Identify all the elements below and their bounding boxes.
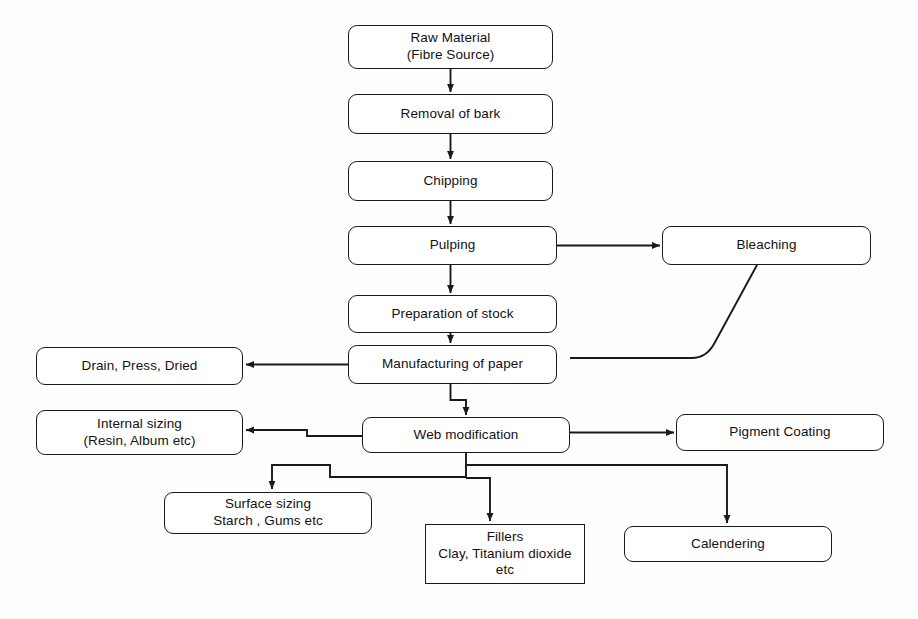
node-internal-sizing[interactable]: Internal sizing (Resin, Album etc) [36,410,243,455]
node-label: Web modification [410,427,523,444]
node-label: Fillers Clay, Titanium dioxide etc [434,529,575,580]
edge-manufacturing-to-web [451,384,467,415]
node-fillers[interactable]: Fillers Clay, Titanium dioxide etc [425,524,585,584]
edge-web-to-surface-sizing [272,465,466,489]
node-label: Drain, Press, Dried [78,358,202,375]
node-label: Preparation of stock [387,306,517,323]
edge-bleaching-to-manufacturing [570,265,757,358]
flowchart-canvas: Raw Material (Fibre Source) Removal of b… [0,0,918,619]
node-label: Surface sizing Starch , Gums etc [209,496,327,530]
node-pigment-coating[interactable]: Pigment Coating [676,414,884,451]
edge-web-to-fillers [466,478,490,521]
node-label: Pulping [426,237,480,254]
node-label: Removal of bark [397,106,505,123]
node-web-modification[interactable]: Web modification [362,417,570,453]
node-label: Calendering [687,536,769,553]
node-label: Bleaching [732,237,800,254]
node-surface-sizing[interactable]: Surface sizing Starch , Gums etc [164,492,372,534]
node-drain-press-dried[interactable]: Drain, Press, Dried [36,347,243,385]
node-chipping[interactable]: Chipping [348,161,553,201]
node-calendering[interactable]: Calendering [624,526,832,562]
node-manufacturing-of-paper[interactable]: Manufacturing of paper [348,345,557,384]
node-label: Pigment Coating [725,424,834,441]
node-label: Raw Material (Fibre Source) [403,30,499,64]
edge-web-to-calendering [466,465,727,523]
node-preparation-of-stock[interactable]: Preparation of stock [348,295,557,333]
node-bleaching[interactable]: Bleaching [662,226,871,265]
node-label: Chipping [419,173,481,190]
node-label: Internal sizing (Resin, Album etc) [79,416,199,450]
node-pulping[interactable]: Pulping [348,226,557,265]
node-raw-material[interactable]: Raw Material (Fibre Source) [348,25,553,69]
edge-web-to-internal-sizing [246,430,362,436]
node-removal-of-bark[interactable]: Removal of bark [348,94,553,134]
node-label: Manufacturing of paper [378,356,527,373]
